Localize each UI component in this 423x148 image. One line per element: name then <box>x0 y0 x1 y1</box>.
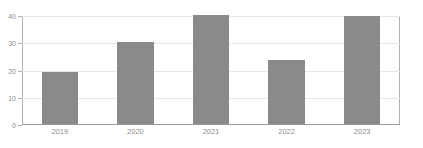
y-tick-mark <box>18 125 22 126</box>
y-axis-tick-label: 10 <box>8 94 16 101</box>
y-axis-tick-label: 40 <box>8 13 16 20</box>
y-tick-mark <box>18 16 22 17</box>
y-axis-tick-label: 20 <box>8 67 16 74</box>
y-tick-mark <box>18 43 22 44</box>
bar-2022[interactable] <box>268 60 304 124</box>
plot-area: 010203040 <box>22 16 400 125</box>
y-tick-mark <box>18 71 22 72</box>
x-axis-tick-label-2023: 2023 <box>354 127 371 136</box>
x-axis-tick-label-2022: 2022 <box>278 127 295 136</box>
bar-2021[interactable] <box>193 15 229 124</box>
bar-chart-figure: 010203040 20192020202120222023 <box>0 0 423 148</box>
bar-2023[interactable] <box>344 16 380 124</box>
y-axis-tick-label: 0 <box>12 122 16 129</box>
bar-2020[interactable] <box>117 42 153 124</box>
y-axis-tick-label: 30 <box>8 40 16 47</box>
watermark-text <box>417 1 419 7</box>
x-axis-tick-label-2020: 2020 <box>127 127 144 136</box>
x-axis-tick-label-2019: 2019 <box>51 127 68 136</box>
x-axis-tick-label-2021: 2021 <box>203 127 220 136</box>
x-axis-spine <box>22 124 400 125</box>
y-tick-mark <box>18 98 22 99</box>
bar-2019[interactable] <box>42 72 78 124</box>
